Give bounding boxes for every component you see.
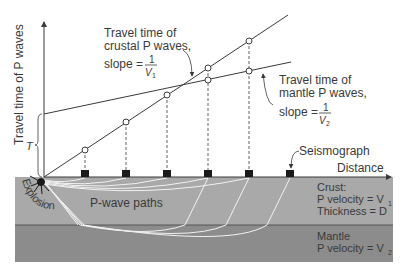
crustal-annotation-line1: Travel time of	[104, 26, 177, 40]
y-axis-label: Travel time of P waves	[12, 24, 26, 145]
crustal-slope-prefix: slope =	[104, 57, 143, 71]
seismograph-icon	[245, 170, 253, 177]
crust-title: Crust:	[317, 181, 346, 193]
mantle-travel-line	[44, 62, 291, 114]
crustal-slope-denominator-sub: 1	[152, 72, 156, 79]
crustal-pointer	[183, 50, 192, 76]
seismograph-icon	[163, 170, 171, 177]
mantle-slope-denominator-sub: 2	[326, 120, 330, 127]
seismograph-icon	[81, 170, 89, 177]
intercept-brace	[35, 114, 42, 177]
crustal-slope-numerator: 1	[149, 54, 155, 65]
mantle-slope-numerator: 1	[323, 102, 329, 113]
seismic-refraction-diagram: T Travel time of P waves Distance Travel…	[0, 0, 404, 277]
mantle-annotation-line1: Travel time of	[279, 73, 352, 87]
seismographs	[81, 170, 294, 177]
crust-velocity: P velocity = V	[317, 193, 384, 205]
mantle-velocity-sub: 2	[388, 249, 392, 256]
p-wave-paths-label: P-wave paths	[90, 196, 163, 210]
crust-thickness: Thickness = D	[317, 205, 387, 217]
intercept-label: T	[26, 140, 34, 152]
mantle-annotation-line2: mantle P waves,	[279, 86, 367, 100]
seismograph-label: Seismograph	[299, 144, 370, 158]
crustal-annotation-line2: crustal P waves,	[104, 39, 191, 53]
mantle-velocity: P velocity = V	[317, 242, 384, 254]
seismograph-icon	[286, 170, 294, 177]
mantle-pointer	[263, 74, 273, 105]
crust-velocity-sub: 1	[388, 200, 392, 207]
seismograph-icon	[204, 170, 212, 177]
mantle-slope-prefix: slope =	[279, 105, 318, 119]
seismograph-pointer	[291, 151, 299, 168]
x-axis-label: Distance	[337, 161, 384, 175]
mantle-title: Mantle	[317, 230, 350, 242]
seismograph-icon	[122, 170, 130, 177]
